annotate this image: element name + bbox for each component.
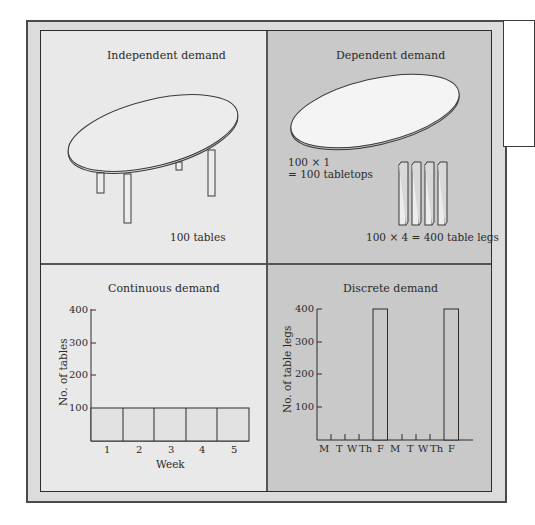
y-tick-400: 400: [288, 303, 314, 314]
table-illustration: [61, 80, 246, 223]
continuous-x-axis-label: Week: [156, 458, 185, 470]
x-tick-week-5: 5: [231, 444, 237, 455]
tabletops-formula-line1: 100 × 1: [288, 156, 330, 168]
table-legs-formula: 100 × 4 = 400 table legs: [366, 231, 499, 243]
discrete-demand-title: Discrete demand: [343, 282, 438, 295]
tables-count-label: 100 tables: [170, 231, 226, 243]
x-tick-day: Th: [359, 443, 372, 454]
x-tick-day: W: [347, 443, 357, 454]
dependent-demand-title: Dependent demand: [336, 49, 445, 62]
discrete-demand-chart: [317, 309, 473, 440]
table-legs-illustration: [399, 162, 447, 225]
x-tick-day: Th: [430, 443, 443, 454]
x-tick-day: W: [418, 443, 428, 454]
x-tick-day: T: [407, 443, 414, 454]
x-tick-day: F: [448, 443, 455, 454]
x-tick-week-3: 3: [168, 444, 174, 455]
discrete-y-axis-label: No. of table legs: [281, 326, 293, 413]
tabletops-formula-line2: = 100 tabletops: [288, 168, 373, 180]
independent-demand-title: Independent demand: [107, 49, 226, 62]
x-tick-week-1: 1: [104, 444, 110, 455]
x-tick-week-4: 4: [199, 444, 205, 455]
x-tick-day: M: [390, 443, 400, 454]
x-tick-day: F: [377, 443, 384, 454]
x-tick-day: M: [319, 443, 329, 454]
continuous-y-axis-label: No. of tables: [57, 338, 69, 406]
x-tick-week-2: 2: [136, 444, 142, 455]
tabletop-illustration: [284, 60, 466, 163]
continuous-demand-title: Continuous demand: [108, 282, 220, 295]
y-tick-400: 400: [62, 304, 88, 315]
x-tick-day: T: [336, 443, 343, 454]
continuous-demand-chart: [91, 309, 249, 441]
